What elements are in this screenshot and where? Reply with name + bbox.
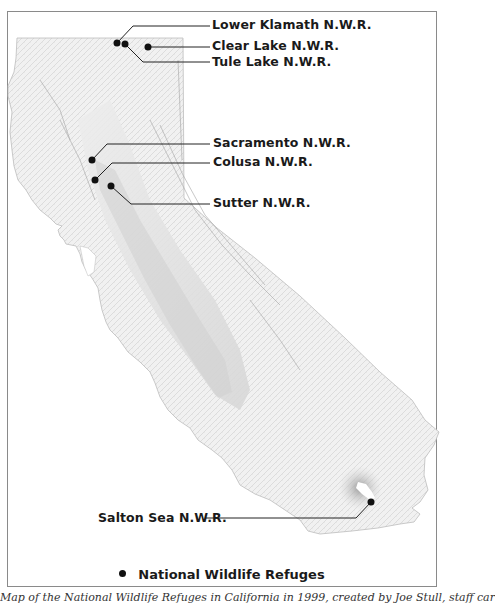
label-sutter: Sutter N.W.R. bbox=[213, 197, 310, 210]
label-sacramento: Sacramento N.W.R. bbox=[213, 137, 351, 150]
refuge-dot-tule-lake bbox=[122, 41, 129, 48]
refuge-dot-lower-klamath bbox=[114, 40, 121, 47]
label-lower-klamath: Lower Klamath N.W.R. bbox=[212, 19, 372, 32]
legend-dot-icon bbox=[119, 570, 126, 577]
label-tule-lake: Tule Lake N.W.R. bbox=[212, 56, 331, 69]
refuge-dot-sutter bbox=[108, 183, 115, 190]
label-salton-sea: Salton Sea N.W.R. bbox=[98, 512, 227, 525]
figure-caption: Map of the National Wildlife Refuges in … bbox=[0, 592, 444, 603]
refuge-dot-salton-sea bbox=[368, 499, 375, 506]
california-shape bbox=[8, 38, 439, 534]
refuge-dot-colusa bbox=[92, 177, 99, 184]
refuge-dot-sacramento bbox=[89, 157, 96, 164]
legend: National Wildlife Refuges bbox=[0, 568, 444, 581]
refuge-dot-clear-lake bbox=[145, 44, 152, 51]
label-colusa: Colusa N.W.R. bbox=[213, 156, 313, 169]
legend-label: National Wildlife Refuges bbox=[138, 567, 324, 582]
label-clear-lake: Clear Lake N.W.R. bbox=[212, 40, 339, 53]
